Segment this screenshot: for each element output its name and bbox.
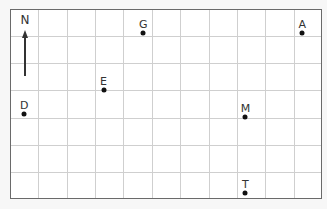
grid-horizontal-line [11,63,321,64]
point-marker-icon [300,30,305,35]
grid-vertical-line [38,10,39,198]
grid-vertical-line [123,10,124,198]
north-arrow-shaft [24,36,25,76]
grid-vertical-line [209,10,210,198]
point-label: A [298,19,306,30]
point-label: M [241,103,251,114]
grid-horizontal-line [11,36,321,37]
point-label: T [242,179,249,190]
grid-map: N GAEDMT [10,9,322,199]
grid-horizontal-line [11,90,321,91]
grid-vertical-line [294,10,295,198]
grid-vertical-line [95,10,96,198]
point-label: E [100,76,107,87]
grid-vertical-line [180,10,181,198]
grid-horizontal-line [11,118,321,119]
grid-vertical-line [67,10,68,198]
grid-vertical-line [152,10,153,198]
point-marker-icon [22,112,27,117]
point-marker-icon [243,114,248,119]
grid-vertical-line [237,10,238,198]
north-label: N [21,14,30,26]
grid-horizontal-line [11,145,321,146]
point-label: D [20,100,28,111]
point-marker-icon [243,190,248,195]
point-marker-icon [141,30,146,35]
point-marker-icon [101,87,106,92]
point-label: G [139,19,148,30]
grid-vertical-line [265,10,266,198]
grid-horizontal-line [11,172,321,173]
